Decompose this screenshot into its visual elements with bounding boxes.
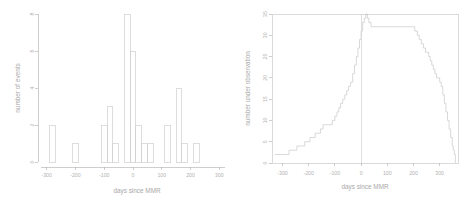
x-axis: -300-200-1000100200300 <box>41 167 226 178</box>
histogram-bar <box>165 125 171 162</box>
step-curve <box>275 14 456 163</box>
histogram-bar <box>50 125 56 162</box>
y-tick-label: 4 <box>29 86 35 89</box>
histogram-bar <box>136 125 142 162</box>
step-plot-svg: 05101520253035-300-200-1000100200300days… <box>236 0 472 202</box>
histogram-svg: 02468-300-200-1000100200300days since MM… <box>0 0 236 202</box>
x-tick-label: 100 <box>383 170 392 176</box>
y-tick-label: 35 <box>262 11 268 17</box>
plot-frame <box>272 14 458 163</box>
x-tick-label: -100 <box>99 172 109 178</box>
y-tick-label: 6 <box>29 49 35 52</box>
histogram-bar <box>101 125 107 162</box>
y-tick-label: 15 <box>262 96 268 102</box>
histogram-bars <box>50 14 200 162</box>
histogram-bar <box>147 144 153 163</box>
histogram-bar <box>142 144 148 163</box>
x-axis: -300-200-1000100200300 <box>277 163 444 176</box>
x-axis-title: days since MMR <box>341 183 389 191</box>
histogram-bar <box>107 107 113 163</box>
x-tick-label: 0 <box>360 170 363 176</box>
y-axis: 05101520253035 <box>262 11 272 164</box>
y-tick-label: 5 <box>262 140 268 143</box>
x-tick-label: -200 <box>303 170 313 176</box>
x-tick-label: -100 <box>330 170 340 176</box>
y-axis-title: number of events <box>14 63 21 112</box>
x-tick-label: 200 <box>186 172 195 178</box>
x-axis-title: days since MMR <box>113 187 161 195</box>
x-tick-label: 200 <box>409 170 418 176</box>
y-tick-label: 2 <box>29 123 35 126</box>
y-tick-label: 20 <box>262 75 268 81</box>
histogram-bar <box>73 144 79 163</box>
x-tick-label: -300 <box>277 170 287 176</box>
x-tick-label: 300 <box>215 172 224 178</box>
histogram-bar <box>182 144 188 163</box>
y-axis: 02468 <box>29 12 38 163</box>
figure-container: 02468-300-200-1000100200300days since MM… <box>0 0 472 202</box>
histogram-bar <box>130 51 136 162</box>
y-tick-label: 8 <box>29 12 35 15</box>
y-tick-label: 30 <box>262 32 268 38</box>
x-tick-label: -200 <box>70 172 80 178</box>
histogram-bar <box>113 144 119 163</box>
histogram-panel: 02468-300-200-1000100200300days since MM… <box>0 0 236 202</box>
histogram-bar <box>176 88 182 162</box>
x-tick-label: -300 <box>41 172 51 178</box>
x-tick-label: 300 <box>435 170 444 176</box>
y-axis-title: number under observation <box>244 51 251 126</box>
y-tick-label: 25 <box>262 54 268 60</box>
x-tick-label: 100 <box>157 172 166 178</box>
histogram-bar <box>193 144 199 163</box>
y-tick-label: 0 <box>29 160 35 163</box>
y-tick-label: 10 <box>262 117 268 123</box>
step-plot-panel: 05101520253035-300-200-1000100200300days… <box>236 0 472 202</box>
histogram-bar <box>124 14 130 162</box>
x-tick-label: 0 <box>132 172 135 178</box>
y-tick-label: 0 <box>262 161 268 164</box>
